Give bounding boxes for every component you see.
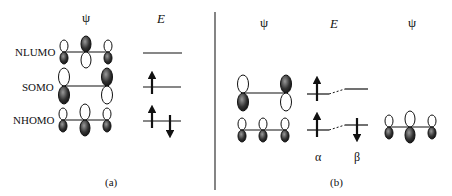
panel-b-upper-orbitals — [238, 75, 292, 111]
panel-b-right-orbitals — [385, 111, 436, 143]
panel-b-lower-orbitals — [238, 118, 289, 142]
nlumo-orbitals — [60, 36, 112, 68]
orbital-diagram — [0, 0, 452, 196]
panel-b-lower-level — [307, 116, 368, 138]
somo-energy-level — [143, 75, 181, 94]
nhomo-energy-level — [143, 109, 181, 134]
somo-orbitals — [59, 68, 113, 104]
panel-b-alpha-upper-level — [307, 80, 368, 101]
nhomo-orbitals — [59, 104, 111, 136]
